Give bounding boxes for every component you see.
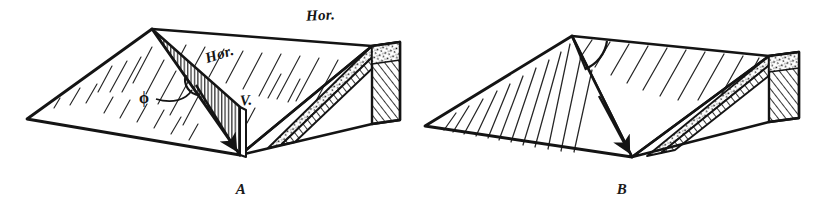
block-diagram-a: Hor. Hor. V. ϕ — [0, 0, 412, 216]
panel-caption-a: A — [211, 181, 271, 198]
label-vertical-a: V. — [239, 93, 252, 109]
panel-caption-b: B — [592, 181, 652, 198]
geology-block-diagram-figure: Hor. Hor. V. ϕ — [0, 0, 823, 216]
label-horizontal-top-a: Hor. — [306, 7, 336, 24]
label-angle-phi: ϕ — [139, 90, 149, 106]
